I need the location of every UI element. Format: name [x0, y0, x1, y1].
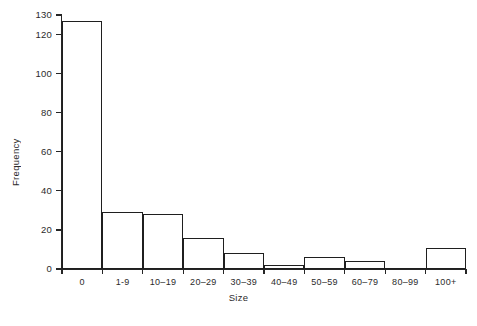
x-tick-label: 20–29	[183, 277, 223, 287]
histogram-bar	[304, 257, 344, 269]
y-tick-label: 80	[41, 108, 52, 118]
histogram-bar	[385, 268, 425, 269]
histogram-bar	[224, 253, 264, 269]
x-tick-mark	[465, 269, 466, 274]
y-tick-label: 100	[36, 69, 52, 79]
x-tick-label: 10–19	[143, 277, 183, 287]
x-tick-label: 0	[62, 277, 102, 287]
y-tick-label: 130	[36, 10, 52, 20]
x-tick-mark	[102, 269, 103, 274]
y-tick-label: 60	[41, 147, 52, 157]
x-tick-mark	[223, 269, 224, 274]
x-tick-mark	[61, 269, 62, 274]
x-tick-label: 80–99	[385, 277, 425, 287]
x-tick-mark	[263, 269, 264, 274]
y-tick-label: 40	[41, 186, 52, 196]
y-tick-label: 0	[47, 264, 52, 274]
histogram-bar	[102, 212, 142, 269]
histogram-figure: Frequency 020406080100120130 01-910–1920…	[0, 0, 477, 326]
y-tick-mark	[56, 14, 62, 15]
x-tick-mark	[142, 269, 143, 274]
x-tick-label: 30–39	[224, 277, 264, 287]
histogram-bar	[345, 261, 385, 269]
histogram-bar	[143, 214, 183, 269]
x-tick-mark	[425, 269, 426, 274]
x-tick-label: 40–49	[264, 277, 304, 287]
histogram-bar	[264, 265, 304, 269]
x-tick-label: 100+	[426, 277, 466, 287]
x-tick-label: 50–59	[304, 277, 344, 287]
x-tick-label: 60–79	[345, 277, 385, 287]
x-tick-mark	[344, 269, 345, 274]
y-tick-label: 120	[36, 30, 52, 40]
histogram-bar	[426, 248, 466, 269]
histogram-bar	[183, 238, 223, 269]
x-tick-mark	[183, 269, 184, 274]
y-axis-title: Frequency	[8, 112, 22, 212]
histogram-bar	[62, 21, 102, 269]
y-tick-label: 20	[41, 225, 52, 235]
x-axis-title: Size	[0, 292, 477, 303]
x-tick-label: 1-9	[102, 277, 142, 287]
x-tick-mark	[304, 269, 305, 274]
x-tick-mark	[385, 269, 386, 274]
